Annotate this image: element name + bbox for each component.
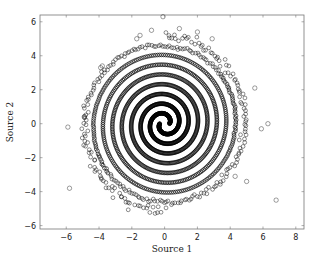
x-tick-label: 8 (293, 233, 298, 242)
y-tick-label: 0 (31, 120, 36, 129)
x-tick-label: 4 (228, 233, 233, 242)
y-tick-label: 2 (31, 86, 36, 95)
y-tick-label: −4 (24, 188, 36, 197)
y-tick-label: 6 (31, 18, 36, 27)
y-tick-label: −2 (24, 154, 36, 163)
y-tick-label: 4 (31, 52, 36, 61)
plot-area: −6−4−202468 −6−4−20246 (24, 14, 304, 242)
x-tick-label: 6 (260, 233, 265, 242)
x-tick-label: −2 (126, 233, 138, 242)
x-tick-label: −6 (60, 233, 72, 242)
x-tick-label: 2 (195, 233, 200, 242)
x-tick-label: −4 (93, 233, 105, 242)
y-axis-label: Source 2 (5, 102, 15, 143)
scatter-chart: −6−4−202468 −6−4−20246 Source 1 Source 2 (0, 0, 320, 265)
x-axis-label: Source 1 (152, 244, 193, 254)
y-tick-label: −6 (24, 222, 36, 231)
x-tick-label: 0 (162, 233, 167, 242)
